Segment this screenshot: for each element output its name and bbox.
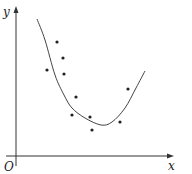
data-point [55,40,58,43]
fit-curve [37,19,145,125]
data-point [45,68,48,71]
data-point [126,87,129,90]
data-point [70,113,73,116]
data-point [62,72,65,75]
y-axis-arrow-icon [14,6,19,13]
data-point [90,128,93,131]
scatter-chart: y x O [0,0,192,174]
y-axis-label: y [2,5,10,19]
x-axis-arrow-icon [167,154,174,159]
origin-label: O [4,160,14,174]
data-point [74,95,77,98]
data-point [61,56,64,59]
data-point [88,115,91,118]
x-axis-label: x [168,159,175,173]
data-point [118,120,121,123]
